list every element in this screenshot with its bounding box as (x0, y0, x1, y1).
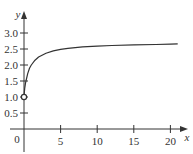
x-tick-label: 0 (14, 133, 20, 145)
data-curve (24, 44, 178, 97)
y-tick-label: 2.5 (4, 43, 18, 55)
chart: xy051015200.51.01.52.02.53.0 (0, 0, 193, 154)
plot-area: xy051015200.51.01.52.02.53.0 (4, 8, 189, 152)
y-tick-label: 1.0 (4, 91, 18, 103)
y-tick-label: 0.5 (4, 107, 18, 119)
y-tick-label: 2.0 (4, 59, 18, 71)
y-axis-arrow-icon (21, 11, 27, 19)
x-axis-label: x (184, 131, 190, 143)
x-tick-label: 15 (128, 135, 140, 147)
x-tick-label: 10 (92, 135, 104, 147)
y-axis-label: y (15, 8, 21, 20)
x-tick-label: 20 (165, 135, 177, 147)
x-tick-label: 5 (58, 135, 64, 147)
open-circle-marker (21, 94, 26, 99)
y-tick-label: 1.5 (4, 75, 18, 87)
y-tick-label: 3.0 (4, 27, 18, 39)
